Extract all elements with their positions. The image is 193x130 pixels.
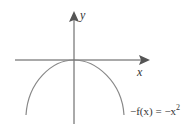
curve-label: −f(x) = −x2 <box>130 103 180 118</box>
curve-label-superscript: 2 <box>176 103 180 112</box>
curve-label-main: −f(x) = −x <box>130 105 177 118</box>
x-axis-label: x <box>136 65 143 79</box>
y-axis-label: y <box>79 8 86 22</box>
chart-canvas: y x −f(x) = −x2 <box>0 0 193 130</box>
curve-neg-x-squared <box>26 60 124 115</box>
